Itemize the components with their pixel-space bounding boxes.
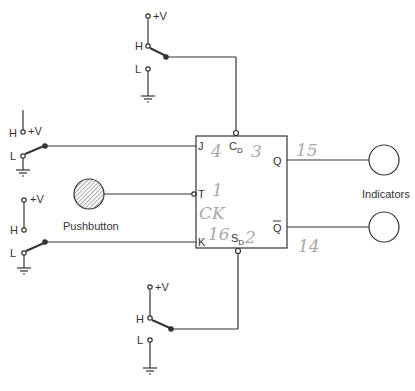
set-switch-high-label: H (136, 313, 144, 325)
j-switch-high-label: H (9, 127, 17, 139)
handwritten-k-pin: 16 (208, 224, 230, 244)
j-switch-vplus-label: +V (28, 125, 42, 137)
j-switch (16, 110, 196, 176)
clear-switch (141, 14, 236, 130)
handwritten-cd-pin: 3 (251, 141, 262, 161)
handwritten-t-pin-extra: CK (199, 203, 226, 223)
pushbutton-label: Pushbutton (63, 220, 119, 232)
k-switch-vplus-label: +V (30, 193, 44, 205)
pin-cd-label: CD (229, 140, 243, 155)
pin-k-label: K (198, 236, 206, 248)
clear-switch-low-label: L (135, 63, 141, 75)
k-switch-low-label: L (10, 247, 16, 259)
pin-qbar-label: Q (273, 222, 282, 234)
k-switch-high-label: H (10, 224, 18, 236)
set-switch (143, 254, 238, 374)
pin-q-label: Q (273, 155, 282, 167)
handwritten-q-pin: 15 (296, 140, 318, 160)
handwritten-t-pin: 1 (212, 180, 223, 200)
k-switch (17, 198, 196, 274)
set-switch-vplus-label: +V (155, 281, 169, 293)
handwritten-qbar-pin: 14 (298, 236, 320, 256)
pin-t-label: T (198, 188, 205, 200)
handwritten-sd-pin: 2 (244, 227, 256, 247)
pin-sd-label: SD (231, 232, 244, 247)
indicators-label: Indicators (362, 188, 410, 200)
pushbutton (74, 179, 196, 209)
j-switch-low-label: L (10, 150, 16, 162)
circuit-diagram: +V H L +V H L +V H L +V H L Pushbutton I… (0, 0, 415, 391)
pin-j-label: J (198, 140, 204, 152)
handwritten-j-pin: 4 (210, 141, 222, 161)
set-switch-low-label: L (137, 334, 143, 346)
clear-switch-vplus-label: +V (153, 10, 167, 22)
clear-switch-high-label: H (135, 40, 143, 52)
